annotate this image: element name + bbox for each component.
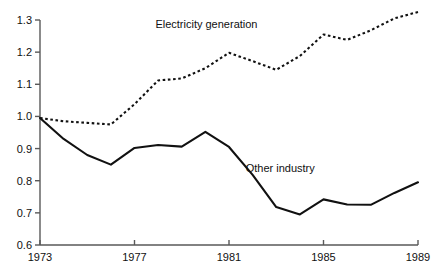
line-chart: 1.31.21.11.00.90.80.70.6 197319771981198… [0, 0, 443, 278]
y-axis-tick-label: 0.8 [2, 176, 32, 187]
series-group [40, 12, 418, 215]
x-axis-tick-label: 1973 [18, 252, 62, 263]
y-axis-tick-label: 1.0 [2, 111, 32, 122]
y-axis-tick-label: 0.7 [2, 208, 32, 219]
series-label-electricity-generation: Electricity generation [155, 19, 257, 30]
axes-group [35, 20, 418, 245]
x-axis-ticks [40, 240, 418, 245]
y-axis-tick-label: 1.2 [2, 47, 32, 58]
series-label-other-industry: Other industry [246, 163, 315, 174]
y-axis-tick-label: 0.6 [2, 240, 32, 251]
x-axis-tick-label: 1981 [207, 252, 251, 263]
series-line-other-industry [40, 118, 418, 214]
y-axis-tick-label: 0.9 [2, 144, 32, 155]
chart-plot-area [0, 0, 443, 278]
y-axis-ticks [35, 20, 40, 245]
x-axis-tick-label: 1977 [113, 252, 157, 263]
y-axis-tick-label: 1.3 [2, 15, 32, 26]
x-axis-tick-label: 1985 [302, 252, 346, 263]
x-axis-tick-label: 1989 [396, 252, 440, 263]
y-axis-tick-label: 1.1 [2, 79, 32, 90]
